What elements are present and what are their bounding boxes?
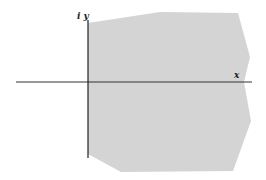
- x-axis-label: x: [233, 70, 240, 80]
- complex-plane-diagram: x i y: [0, 0, 266, 180]
- shaded-region: [88, 12, 251, 172]
- y-axis-label: i y: [77, 11, 90, 21]
